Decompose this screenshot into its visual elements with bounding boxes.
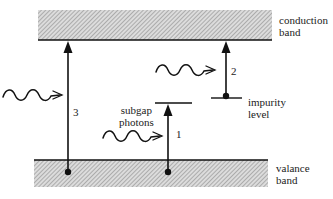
impurity-level-label-line2: level: [248, 108, 286, 120]
valence-band-label-line2: band: [276, 174, 310, 186]
photon-wave-1: [103, 131, 162, 142]
impurity-level-label: impurity level: [248, 96, 286, 120]
valence-band-label: valance band: [276, 162, 310, 186]
valence-band-label-line1: valance: [276, 162, 310, 174]
photon-wave-2: [156, 65, 215, 76]
conduction-band: [38, 10, 272, 40]
transition-arrow-3: [64, 41, 73, 175]
subgap-photons-label: subgap photons: [119, 104, 154, 128]
conduction-band-label: conduction band: [279, 14, 328, 38]
subgap-photons-label-line1: subgap: [119, 104, 154, 116]
conduction-band-label-line1: conduction: [279, 14, 328, 26]
subgap-photons-label-line2: photons: [119, 116, 154, 128]
impurity-level-label-line1: impurity: [248, 96, 286, 108]
photon-wave-3: [3, 90, 62, 101]
transition-label-1: 1: [176, 128, 182, 140]
conduction-band-label-line2: band: [279, 26, 328, 38]
transition-label-3: 3: [73, 106, 79, 118]
transition-label-2: 2: [231, 65, 237, 77]
